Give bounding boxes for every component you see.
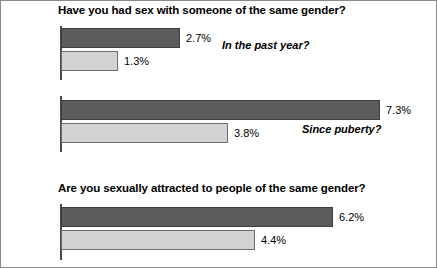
chart-figure: Have you had sex with someone of the sam…: [0, 0, 437, 268]
bar-value-men-since-puberty: 7.3%: [380, 100, 411, 120]
chart-panel-sexual-attraction: Are you sexually attracted to people of …: [0, 182, 437, 266]
bar-value-women-since-puberty: 3.8%: [228, 123, 259, 143]
bar-men-since-puberty[interactable]: [61, 100, 380, 120]
group-caption-since-puberty: Since puberty?: [302, 123, 381, 135]
bar-women-attraction[interactable]: [61, 230, 255, 250]
bar-value-men-attraction: 6.2%: [333, 207, 364, 227]
panel-title-sexual-behavior: Have you had sex with someone of the sam…: [58, 4, 346, 16]
bar-men-attraction[interactable]: [61, 207, 333, 227]
group-caption-past-year: In the past year?: [222, 39, 309, 51]
panel-title-sexual-attraction: Are you sexually attracted to people of …: [58, 182, 366, 194]
bar-women-past-year[interactable]: [61, 51, 118, 71]
bar-value-women-past-year: 1.3%: [118, 51, 149, 71]
bar-value-women-attraction: 4.4%: [255, 230, 286, 250]
bar-men-past-year[interactable]: [61, 28, 180, 48]
bar-women-since-puberty[interactable]: [61, 123, 228, 143]
bar-value-men-past-year: 2.7%: [180, 28, 211, 48]
chart-panel-sexual-behavior: Have you had sex with someone of the sam…: [0, 4, 437, 162]
frame-border-top: [0, 0, 437, 1]
